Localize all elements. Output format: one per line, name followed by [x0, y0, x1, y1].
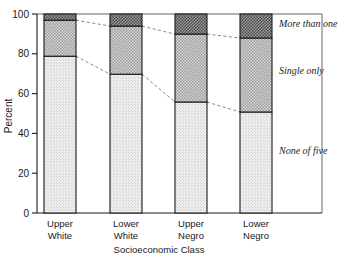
- legend-label-more-than-one: More than one: [278, 18, 338, 29]
- bar-group-upper-negro[interactable]: [175, 14, 207, 213]
- connector-single-3-4: [207, 34, 240, 38]
- xtick-label-lower-white-line1: Lower: [113, 218, 139, 229]
- ytick-label-100: 100: [12, 9, 29, 20]
- bar-group-lower-white[interactable]: [110, 14, 142, 213]
- bar-segment-single-only[interactable]: [175, 34, 207, 102]
- bar-group-lower-negro[interactable]: [240, 14, 272, 213]
- connector-none-3-4: [207, 102, 240, 112]
- ytick-label-20: 20: [18, 168, 30, 179]
- segment-legend-labels: More than one Single only None of five: [278, 18, 338, 156]
- bar-segment-none-of-five[interactable]: [175, 102, 207, 213]
- ytick-label-60: 60: [18, 88, 30, 99]
- xtick-label-upper-negro-line2: Negro: [178, 230, 204, 241]
- x-axis-title: Socioeconomic Class: [114, 244, 205, 255]
- legend-label-none-of-five: None of five: [278, 145, 328, 156]
- ytick-label-80: 80: [18, 48, 30, 59]
- xtick-label-upper-white-line2: White: [48, 230, 72, 241]
- y-axis-title: Percent: [3, 99, 14, 134]
- x-axis-category-labels: Upper White Lower White Upper Negro Lowe…: [47, 218, 269, 241]
- legend-label-single-only: Single only: [279, 65, 324, 76]
- connector-none-2-3: [142, 74, 175, 102]
- xtick-label-upper-negro-line1: Upper: [178, 218, 204, 229]
- xtick-label-upper-white-line1: Upper: [47, 218, 73, 229]
- connector-lines: [76, 20, 240, 112]
- bar-segment-none-of-five[interactable]: [44, 56, 76, 213]
- bar-segment-more-than-one[interactable]: [240, 14, 272, 38]
- chart-figure: 0 20 40 60 80 100 Percent: [0, 0, 350, 258]
- bar-segment-single-only[interactable]: [240, 38, 272, 112]
- bar-segment-more-than-one[interactable]: [175, 14, 207, 34]
- bar-segment-more-than-one[interactable]: [44, 14, 76, 20]
- xtick-label-lower-negro-line2: Negro: [243, 230, 269, 241]
- connector-single-2-3: [142, 26, 175, 34]
- connector-single-1-2: [76, 20, 110, 26]
- xtick-label-lower-negro-line1: Lower: [243, 218, 269, 229]
- bar-group-upper-white[interactable]: [44, 14, 76, 213]
- ytick-label-0: 0: [23, 208, 29, 219]
- y-axis-ticks: 0 20 40 60 80 100: [12, 9, 37, 219]
- bar-segment-more-than-one[interactable]: [110, 14, 142, 26]
- bar-segment-none-of-five[interactable]: [110, 74, 142, 213]
- bar-segment-single-only[interactable]: [110, 26, 142, 74]
- stacked-bar-chart: 0 20 40 60 80 100 Percent: [0, 0, 350, 258]
- connector-none-1-2: [76, 56, 110, 74]
- xtick-label-lower-white-line2: White: [114, 230, 138, 241]
- ytick-label-40: 40: [18, 128, 30, 139]
- bar-segment-none-of-five[interactable]: [240, 112, 272, 213]
- bar-segment-single-only[interactable]: [44, 20, 76, 56]
